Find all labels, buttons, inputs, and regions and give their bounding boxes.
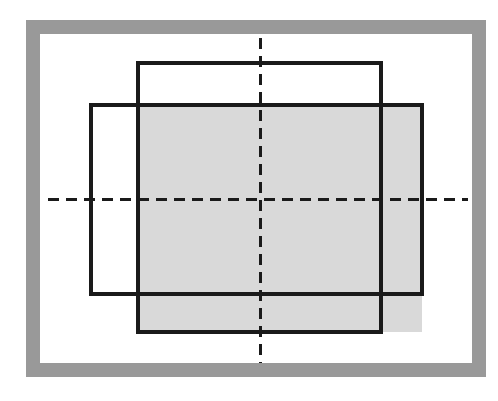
technical-drawing (0, 0, 498, 401)
figure-canvas (0, 0, 498, 401)
